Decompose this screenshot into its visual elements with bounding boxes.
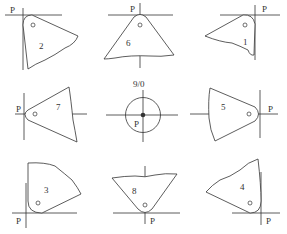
nose-center-dot — [31, 23, 35, 27]
p-label: P — [16, 216, 21, 226]
tool-insert-shape — [205, 15, 255, 55]
p-label: P — [10, 5, 15, 15]
p-label: P — [266, 216, 271, 226]
nose-center-dot — [243, 23, 247, 27]
position-label: 2 — [39, 41, 44, 51]
center-label: 9/0 — [133, 79, 145, 89]
position-label: 7 — [56, 102, 61, 112]
position-6: P 6 — [104, 3, 174, 68]
p-label: P — [268, 104, 273, 114]
position-label: 4 — [240, 182, 245, 192]
p-label: P — [262, 4, 267, 14]
nose-center-dot — [33, 112, 37, 116]
tool-insert-shape — [28, 163, 81, 213]
position-8: P 8 — [112, 166, 180, 226]
position-label: 6 — [126, 38, 131, 48]
position-3: P 3 — [12, 163, 81, 228]
nose-center-dot — [143, 203, 147, 207]
p-label: P — [16, 104, 21, 114]
tool-insert-shape — [23, 15, 78, 69]
position-9-0: 9/0 P — [106, 79, 178, 142]
position-label: 3 — [44, 185, 49, 195]
nose-center-dot — [141, 113, 146, 118]
position-4: P 4 — [206, 159, 280, 226]
tool-nose-diagram: P 2 P 6 P 1 P 7 9/0 P — [0, 0, 287, 234]
position-label: 5 — [221, 102, 226, 112]
position-label: 8 — [132, 186, 137, 196]
position-2: P 2 — [5, 5, 78, 70]
position-label: 1 — [243, 37, 248, 47]
p-label: P — [130, 4, 135, 14]
position-1: P 1 — [205, 4, 280, 60]
tool-insert-shape — [206, 159, 261, 213]
nose-center-dot — [247, 112, 251, 116]
position-7: P 7 — [15, 87, 87, 142]
p-label: P — [134, 119, 139, 129]
tool-insert-shape — [104, 15, 174, 60]
nose-center-dot — [138, 23, 142, 27]
position-5: P 5 — [190, 88, 278, 141]
nose-center-dot — [36, 201, 40, 205]
p-label: P — [150, 216, 155, 226]
nose-center-dot — [248, 201, 252, 205]
